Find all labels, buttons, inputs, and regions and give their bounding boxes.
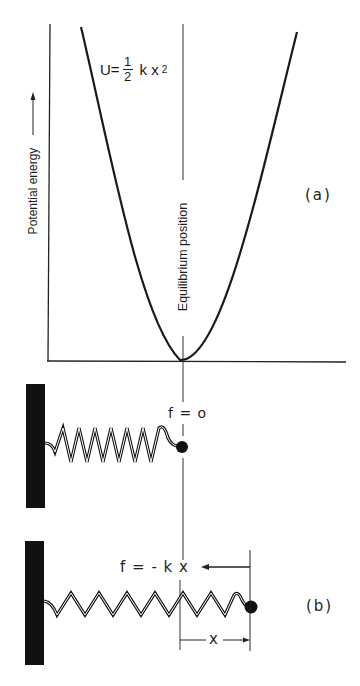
wall-block-rest [26,384,45,508]
formula-numerator: 1 [124,56,131,68]
wall-block-stretched [25,541,44,665]
formula-rhs: k x [140,61,159,78]
panel-b-label: (b) [306,597,333,615]
y-axis [48,24,50,361]
force-zero-label: f = o [168,405,207,421]
displacement-label: x [209,630,219,648]
formula-lhs: U= [100,61,120,78]
arrow-left-icon [201,564,209,570]
panel-a-label: (a) [305,186,332,204]
mass-ball-stretched [245,601,258,614]
dimension-arrow-icon [243,638,250,643]
formula-fraction: 1 2 [123,56,133,83]
equilibrium-position-label: Equilibrium position [176,185,190,329]
restoring-force-label: f = - k x [120,558,189,576]
arrow-up-icon [31,92,36,100]
potential-energy-formula: U= 1 2 k x2 [100,56,167,83]
formula-denominator: 2 [124,71,131,83]
y-axis-label: Potential energy [26,133,40,249]
formula-exponent: 2 [162,64,168,75]
diagram-canvas [0,0,360,686]
mass-ball-rest [176,441,188,453]
x-axis [47,361,346,362]
